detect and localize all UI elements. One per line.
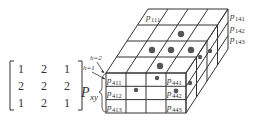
matrix-cell: 2 <box>41 79 47 93</box>
voxel-dot <box>188 81 192 85</box>
matrix-cell: 1 <box>64 62 70 76</box>
pxy-label: P <box>80 85 90 100</box>
h1-label: h=1 <box>83 64 95 72</box>
voxel-dot <box>198 55 202 59</box>
label-p413-sub: 413 <box>112 106 122 113</box>
label-p443-sub: 443 <box>172 106 182 113</box>
h2-label: h=2 <box>90 54 102 62</box>
voxel-grid-diagram: 1 2 1 2 2 2 1 2 1 h=2 h=1 P xy <box>0 0 253 116</box>
label-p411-sub: 411 <box>112 79 122 86</box>
label-p442-sub: 442 <box>172 92 182 99</box>
label-p143-sub: 143 <box>235 38 245 45</box>
matrix-cell: 1 <box>18 96 24 110</box>
voxel-dot <box>134 88 138 92</box>
voxel-dot <box>178 31 184 37</box>
voxel-dot <box>168 47 174 53</box>
label-p142-sub: 142 <box>235 27 245 34</box>
label-p111-sub: 111 <box>151 16 160 23</box>
label-p412-sub: 412 <box>112 92 122 99</box>
kernel-matrix: 1 2 1 2 2 2 1 2 1 <box>10 61 82 110</box>
voxel-dot <box>149 47 155 53</box>
label-p141-sub: 141 <box>235 15 245 22</box>
voxel-dot <box>208 49 212 53</box>
voxel-dot <box>157 63 163 69</box>
matrix-cell: 2 <box>41 62 47 76</box>
cell-labels: p 111 p 141 p 142 p 143 p 411 p 412 p 41… <box>106 11 245 113</box>
matrix-cell: 2 <box>41 96 47 110</box>
matrix-cell: 1 <box>64 96 70 110</box>
voxel-dot <box>188 47 194 53</box>
pxy-subscript: xy <box>89 92 98 102</box>
pxy-brace <box>99 74 106 112</box>
matrix-cell: 1 <box>18 62 24 76</box>
label-p441-sub: 441 <box>172 79 182 86</box>
voxel-dot <box>155 76 159 80</box>
matrix-cell: 2 <box>18 79 24 93</box>
matrix-cell: 2 <box>64 79 70 93</box>
matrix-left-bracket <box>10 61 14 110</box>
